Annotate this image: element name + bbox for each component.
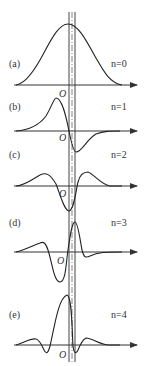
n-label-3: n=3 <box>111 217 127 228</box>
origin-label-c: O <box>59 188 66 199</box>
origin-label-a: O <box>59 88 66 99</box>
n-label-4: n=4 <box>111 309 127 320</box>
panel-e: (e) n=4 O <box>9 295 137 360</box>
n-label-0: n=0 <box>111 58 127 69</box>
panel-label-a: (a) <box>9 58 20 70</box>
panel-b: (b) n=1 O <box>9 98 137 152</box>
vertical-reference-lines <box>69 12 75 362</box>
origin-label-e: O <box>59 349 66 360</box>
n-label-2: n=2 <box>111 149 127 160</box>
panel-label-c: (c) <box>9 149 20 161</box>
n-label-1: n=1 <box>111 101 127 112</box>
origin-label-b: O <box>59 132 66 143</box>
panel-label-b: (b) <box>9 101 21 113</box>
wavefunction-figure: (a) n=0 O (b) n=1 O (c) n=2 O (d) n=3 O … <box>0 0 145 366</box>
panel-label-e: (e) <box>9 309 20 321</box>
panel-label-d: (d) <box>9 217 21 229</box>
panel-c: (c) n=2 O <box>9 149 137 211</box>
curve-n4 <box>16 295 120 353</box>
origin-label-d: O <box>57 255 64 266</box>
panel-a: (a) n=0 O <box>9 24 137 99</box>
curve-n1 <box>16 98 120 152</box>
panel-d: (d) n=3 O <box>9 217 137 282</box>
